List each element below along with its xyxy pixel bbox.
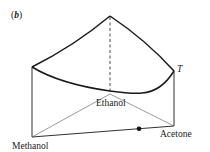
- panel-label: (b): [11, 11, 22, 21]
- methanol-label: Methanol: [12, 142, 48, 152]
- upper-curve-methanol-ethanol: [32, 16, 110, 67]
- lower-curve-methanol-acetone: [32, 67, 174, 93]
- base-edge-methanol-acetone: [32, 126, 174, 137]
- temperature-axis-label: T: [177, 65, 182, 75]
- composition-point: [137, 126, 142, 131]
- acetone-label: Acetone: [160, 130, 192, 140]
- ethanol-label: Ethanol: [96, 99, 126, 109]
- upper-curve-ethanol-acetone: [110, 16, 174, 71]
